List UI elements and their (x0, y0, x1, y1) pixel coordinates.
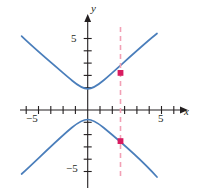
hyperbola-vertical-line-test-figure: x y −5 5 5 −5 (0, 0, 198, 195)
y-axis-arrowhead (84, 14, 91, 22)
plot-canvas (0, 0, 198, 195)
y-tick-label-neg5: −5 (66, 162, 78, 174)
hyperbola-upper-branch (22, 34, 157, 89)
x-axis-label: x (184, 105, 189, 117)
hyperbola-lower-branch (22, 120, 157, 178)
x-tick-label-pos5: 5 (158, 112, 164, 124)
intersection-point-upper (118, 70, 124, 76)
intersection-point-lower (118, 138, 124, 144)
y-axis-label: y (91, 2, 96, 14)
x-tick-label-neg5: −5 (26, 112, 38, 124)
y-tick-label-pos5: 5 (71, 32, 77, 44)
y-axis-group (84, 14, 92, 188)
